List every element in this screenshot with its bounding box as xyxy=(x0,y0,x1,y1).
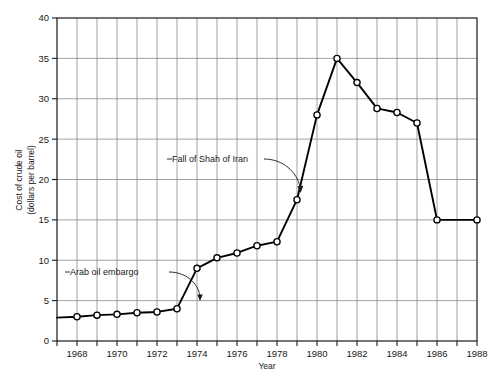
data-point-1977 xyxy=(254,243,260,249)
data-point-1980 xyxy=(314,112,320,118)
x-tick-label-1986: 1986 xyxy=(426,348,447,359)
y-axis-title-line1: Cost of crude oil xyxy=(14,149,24,211)
data-point-1979 xyxy=(294,197,300,203)
y-axis-title-line2: (dollars per barrel) xyxy=(26,145,36,215)
x-tick-label-1988: 1988 xyxy=(466,348,487,359)
y-tick-label-5: 5 xyxy=(44,295,49,306)
data-point-1968 xyxy=(74,314,80,320)
chart-canvas: 0510152025303540 19681970197219741976197… xyxy=(0,0,499,380)
data-point-1971 xyxy=(134,310,140,316)
x-axis: 1968197019721974197619781980198219841986… xyxy=(57,341,488,359)
y-tick-label-0: 0 xyxy=(44,335,49,346)
data-point-1969 xyxy=(94,312,100,318)
x-tick-label-1970: 1970 xyxy=(106,348,127,359)
y-tick-label-20: 20 xyxy=(38,174,49,185)
data-point-1985 xyxy=(414,120,420,126)
data-point-1973 xyxy=(174,306,180,312)
y-tick-label-10: 10 xyxy=(38,255,49,266)
y-axis-title: Cost of crude oil (dollars per barrel) xyxy=(14,145,36,215)
x-tick-label-1982: 1982 xyxy=(346,348,367,359)
data-point-1982 xyxy=(354,80,360,86)
y-tick-label-35: 35 xyxy=(38,53,49,64)
data-point-1975 xyxy=(214,255,220,261)
data-point-1972 xyxy=(154,309,160,315)
annotation-arab-oil-embargo-label: Arab oil embargo xyxy=(70,267,139,277)
x-tick-label-1968: 1968 xyxy=(66,348,87,359)
data-point-1983 xyxy=(374,105,380,111)
x-tick-label-1978: 1978 xyxy=(266,348,287,359)
data-point-1981 xyxy=(334,55,340,61)
y-axis: 0510152025303540 xyxy=(38,12,57,346)
data-point-1978 xyxy=(274,239,280,245)
y-tick-label-30: 30 xyxy=(38,93,49,104)
x-axis-title: Year xyxy=(258,361,275,371)
crude-oil-price-chart: 0510152025303540 19681970197219741976197… xyxy=(0,0,499,380)
data-point-1984 xyxy=(394,109,400,115)
x-tick-label-1980: 1980 xyxy=(306,348,327,359)
x-tick-label-1974: 1974 xyxy=(186,348,207,359)
data-point-1986 xyxy=(434,217,440,223)
y-tick-label-15: 15 xyxy=(38,214,49,225)
x-tick-label-1972: 1972 xyxy=(146,348,167,359)
x-tick-label-1984: 1984 xyxy=(386,348,407,359)
x-tick-label-1976: 1976 xyxy=(226,348,247,359)
data-point-1970 xyxy=(114,311,120,317)
data-point-1974 xyxy=(194,265,200,271)
y-tick-label-25: 25 xyxy=(38,134,49,145)
data-point-1988 xyxy=(474,217,480,223)
annotation-fall-of-shah-of-iran-label: Fall of Shah of Iran xyxy=(172,154,248,164)
y-tick-label-40: 40 xyxy=(38,12,49,23)
data-point-1976 xyxy=(234,250,240,256)
